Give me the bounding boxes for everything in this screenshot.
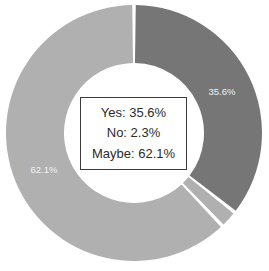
center-legend-box: Yes: 35.6% No: 2.3% Maybe: 62.1% bbox=[80, 97, 187, 170]
slice-value-label-0: 35.6% bbox=[209, 86, 236, 97]
center-legend-line-no: No: 2.3% bbox=[107, 123, 160, 143]
center-legend-line-maybe: Maybe: 62.1% bbox=[92, 144, 175, 164]
donut-chart: 35.6%62.1% Yes: 35.6% No: 2.3% Maybe: 62… bbox=[0, 0, 269, 271]
slice-value-label-1: 62.1% bbox=[31, 164, 58, 175]
center-legend-line-yes: Yes: 35.6% bbox=[101, 103, 166, 123]
